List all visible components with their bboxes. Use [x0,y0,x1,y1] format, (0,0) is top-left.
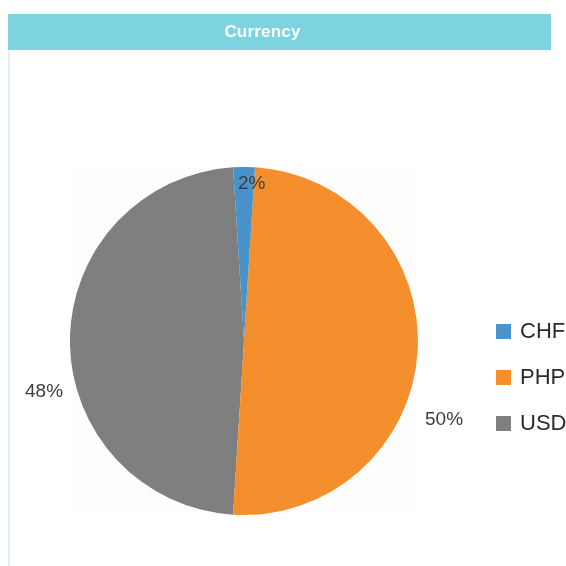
legend-item-usd[interactable]: USD [496,400,566,446]
legend-swatch-usd-icon [496,416,511,431]
chart-title-bar: Currency [8,14,551,50]
data-label-usd: 48% [25,380,63,402]
legend-item-chf[interactable]: CHF [496,308,566,354]
legend-label-chf: CHF [520,320,565,342]
pie-slice-usd[interactable] [70,167,244,514]
pie-slice-php[interactable] [233,167,418,515]
data-label-chf: 2% [238,172,265,194]
legend-swatch-php-icon [496,370,511,385]
page-title: Currency [224,22,300,42]
chart-legend: CHF PHP USD [496,308,566,446]
pie-chart [70,167,418,515]
legend-label-usd: USD [520,412,566,434]
legend-item-php[interactable]: PHP [496,354,566,400]
legend-label-php: PHP [520,366,565,388]
data-label-php: 50% [425,408,463,430]
plot-area: 2% 48% 50% CHF PHP USD [10,50,551,566]
pie-chart-svg [70,167,418,515]
legend-swatch-chf-icon [496,324,511,339]
